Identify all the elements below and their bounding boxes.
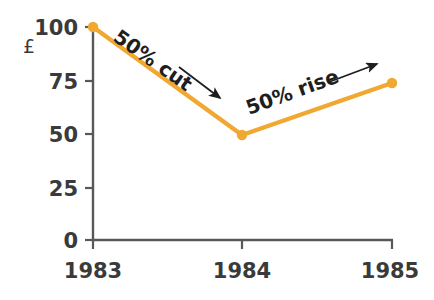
y-tick-label-50: 50: [49, 123, 78, 147]
annotation-cut: 50% cut: [109, 24, 220, 98]
y-tick-label-25: 25: [49, 177, 78, 201]
x-axis-ticks: [93, 240, 392, 249]
chart-container: 100 75 50 25 0 £ 1983 1984 1985: [0, 0, 434, 300]
y-axis-tick-labels: 100 75 50 25 0: [34, 16, 78, 253]
data-point-1984[interactable]: [237, 130, 247, 140]
x-tick-label-1985: 1985: [361, 259, 419, 283]
x-axis-tick-labels: 1983 1984 1985: [64, 259, 419, 283]
annotation-rise-label: 50% rise: [243, 64, 342, 120]
x-tick-label-1984: 1984: [213, 259, 271, 283]
line-chart: 100 75 50 25 0 £ 1983 1984 1985: [0, 0, 434, 300]
y-axis-unit-label: £: [23, 35, 35, 57]
y-tick-label-100: 100: [34, 16, 78, 40]
y-tick-label-0: 0: [63, 229, 78, 253]
y-tick-label-75: 75: [49, 70, 78, 94]
annotation-cut-label: 50% cut: [109, 24, 197, 96]
data-point-1985[interactable]: [387, 78, 397, 88]
data-point-1983[interactable]: [88, 22, 98, 32]
x-tick-label-1983: 1983: [64, 259, 122, 283]
